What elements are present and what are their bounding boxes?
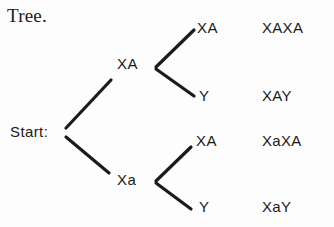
leaf-node-label-1: XA [197, 20, 218, 35]
outcome-label-1: XAXA [262, 20, 303, 35]
edge-upper-node-to-leaf-1 [156, 30, 194, 67]
outcome-label-2: XAY [262, 88, 292, 103]
tree-diagram-figure: Tree. Start: XA Xa XA Y XA Y XAXA XAY Xa… [0, 0, 334, 227]
leaf-node-label-3: XA [196, 133, 217, 148]
leaf-node-label-2: Y [199, 88, 209, 103]
branch-node-upper-label: XA [117, 56, 138, 71]
edge-root-to-upper-node [66, 80, 111, 128]
edge-upper-node-to-leaf-2 [156, 69, 194, 96]
outcome-label-4: XaY [262, 199, 291, 214]
edge-root-to-lower-node [66, 137, 109, 173]
edge-lower-node-to-leaf-3 [156, 147, 191, 181]
root-node-label: Start: [10, 124, 48, 139]
leaf-node-label-4: Y [199, 199, 209, 214]
branch-node-lower-label: Xa [117, 172, 136, 187]
edge-lower-node-to-leaf-4 [156, 183, 191, 209]
outcome-label-3: XaXA [262, 133, 302, 148]
